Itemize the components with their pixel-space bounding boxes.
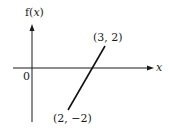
function-graph: f(x) x 0 (3, 2) (2, −2) (0, 0, 169, 131)
point-label-bottom: (2, −2) (53, 113, 92, 124)
y-axis-label: f(x) (25, 7, 44, 18)
point-label-top: (3, 2) (93, 32, 123, 43)
origin-label: 0 (23, 71, 30, 82)
x-axis-label: x (156, 62, 162, 73)
y-axis-label-suffix: ) (40, 6, 44, 19)
y-axis-arrow-icon (30, 24, 35, 31)
function-line-segment (68, 46, 105, 110)
x-axis-arrow-icon (147, 66, 154, 71)
